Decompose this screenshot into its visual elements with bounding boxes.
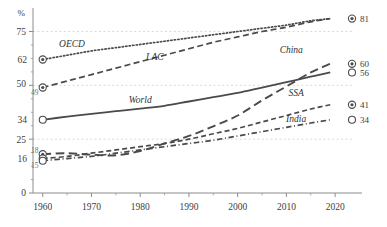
end-marker-world — [349, 69, 356, 76]
start-marker-world — [39, 116, 46, 123]
series-label-lac: LAC — [145, 52, 164, 62]
start-marker-india — [39, 157, 46, 164]
y-axis-unit-group: % — [18, 8, 26, 18]
end-marker-india — [349, 116, 356, 123]
start-marker-oecd-core — [41, 58, 44, 61]
x-tick-label-2010: 2010 — [277, 202, 296, 212]
end-marker-china-core — [350, 62, 353, 65]
start-marker-lac-core — [41, 86, 44, 89]
x-tick-label-1960: 1960 — [33, 202, 52, 212]
end-value-india: 34 — [360, 115, 370, 125]
x-tick-label-1990: 1990 — [179, 202, 198, 212]
series-label-china: China — [280, 45, 303, 55]
y-tick-label-50: 50 — [17, 79, 27, 89]
x-tick-label-1970: 1970 — [82, 202, 101, 212]
end-marker-oecd-core — [350, 17, 353, 20]
x-tick-label-1980: 1980 — [131, 202, 150, 212]
y-start-label-15: 15 — [31, 161, 39, 170]
x-tick-label-2020: 2020 — [326, 202, 345, 212]
x-tick-label-2000: 2000 — [228, 202, 247, 212]
y-start-label-18: 18 — [31, 146, 39, 155]
series-label-oecd: OECD — [59, 39, 85, 49]
y-tick-label-0: 0 — [21, 188, 26, 198]
end-marker-ssa-core — [350, 103, 353, 106]
y-tick-label-75: 75 — [17, 27, 27, 37]
end-value-world: 56 — [360, 68, 370, 78]
y-tick-label-25: 25 — [17, 135, 27, 145]
series-label-world: World — [129, 95, 152, 105]
line-chart: 1960197019801990200020102020 02575 62493… — [0, 0, 387, 227]
end-value-oecd: 81 — [360, 14, 369, 24]
end-value-ssa: 41 — [360, 100, 369, 110]
y-start-label-49: 49 — [31, 88, 39, 97]
series-label-ssa: SSA — [288, 88, 304, 98]
chart-canvas: 1960197019801990200020102020 02575 62493… — [0, 0, 387, 227]
y-start-label-34: 34 — [18, 115, 28, 125]
series-label-india: India — [285, 114, 306, 124]
y-start-label-16: 16 — [18, 154, 28, 164]
y-start-label-62: 62 — [18, 55, 28, 65]
y-axis-unit-label: % — [18, 8, 26, 18]
